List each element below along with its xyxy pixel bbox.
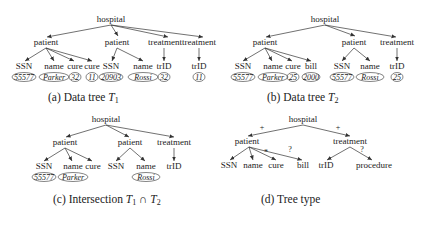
value-name: Rossi [133,73,151,82]
node-patient: patient [118,137,143,147]
value-trid: 32 [159,73,168,82]
value-ssn: 20903 [101,73,121,82]
node-name: name [63,161,83,171]
node-name: name [133,61,153,71]
multiplicity-marker: + [260,123,265,132]
node-patient: patient [34,37,59,47]
panel-a-data-tree-t1: hospital patient patient treatment treat… [12,14,216,105]
value-ssn: 55577 [34,173,55,182]
node-cure: cure [268,160,284,170]
value-trid: 25 [393,73,401,82]
panel-b-data-tree-t2: hospital patient patient treatment SSN n… [231,14,414,105]
value-name: Parker [42,73,66,82]
node-name: name [263,61,283,71]
node-trid: trID [192,61,207,71]
value-name: Parker [261,73,285,82]
node-trid: trID [319,160,334,170]
node-patient: patient [105,37,130,47]
value-cure: 32 [70,73,79,82]
panel-c-intersection: hospital patient patient treatment SSN n… [32,114,191,207]
node-name: name [136,161,156,171]
value-name: Rossi [360,73,378,82]
node-cure: cure [285,61,301,71]
node-trid: trID [157,61,172,71]
node-name: name [360,61,380,71]
node-name: name [243,160,263,170]
node-hospital: hospital [97,14,126,24]
node-ssn: SSN [16,61,33,71]
node-patient: patient [53,137,78,147]
panel-d-tree-type: hospital + + patient treatment * ? ? SSN… [221,114,392,206]
multiplicity-marker: ? [360,145,364,154]
node-trid: trID [390,61,405,71]
node-ssn: SSN [103,61,120,71]
value-cure: 11 [88,73,95,82]
node-name: name [44,61,64,71]
node-treatment: treatment [148,37,182,47]
node-procedure: procedure [356,160,392,170]
node-hospital: hospital [311,14,340,24]
value-cure: 25 [289,73,297,82]
node-treatment: treatment [157,137,191,147]
node-bill: bill [297,160,310,170]
node-bill: bill [305,61,318,71]
node-hospital: hospital [289,114,318,124]
value-trid: 11 [195,73,202,82]
value-bill: 2000 [303,73,319,82]
value-name: Rossi [136,173,154,182]
value-name: Parker [61,173,85,182]
node-cure: cure [85,161,101,171]
caption-a: (a) Data tree T1 [48,91,119,105]
caption-b: (b) Data tree T2 [267,91,338,105]
node-trid: trID [167,161,182,171]
node-hospital: hospital [92,114,121,124]
value-ssn: 55577 [14,73,35,82]
node-patient: patient [235,136,260,146]
figure-canvas: hospital patient patient treatment treat… [0,0,426,225]
node-ssn: SSN [108,161,125,171]
node-ssn: SSN [36,161,53,171]
node-patient: patient [253,37,278,47]
multiplicity-marker: + [336,123,341,132]
node-cure: cure [84,61,100,71]
caption-c: (c) Intersection T1 ∩ T2 [53,193,161,207]
value-ssn: 55577 [233,73,254,82]
value-ssn: 55577 [332,73,353,82]
node-ssn: SSN [334,61,351,71]
node-ssn: SSN [221,160,238,170]
multiplicity-marker: ? [288,145,292,154]
node-treatment: treatment [380,37,414,47]
node-treatment: treatment [182,37,216,47]
node-patient: patient [342,37,367,47]
node-ssn: SSN [235,61,252,71]
node-cure: cure [67,61,83,71]
multiplicity-marker: * [264,148,268,157]
caption-d: (d) Tree type [261,193,320,206]
